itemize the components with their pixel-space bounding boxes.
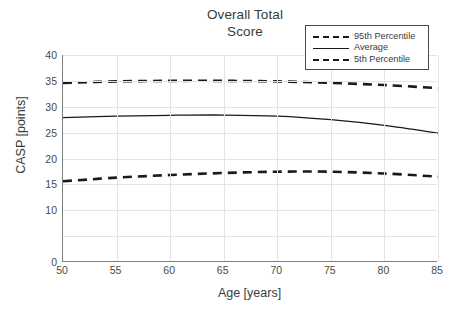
- chart-title-line-1: Overall Total: [160, 6, 330, 23]
- gridline-horizontal: [63, 184, 437, 185]
- legend-label-95th-percentile: 95th Percentile: [354, 31, 415, 42]
- y-axis-tick-label: 40: [10, 49, 62, 61]
- x-axis-tick-labels: 5055606570758085: [62, 264, 437, 280]
- y-axis-tick-label: 10: [10, 204, 62, 216]
- gridline-vertical: [224, 55, 225, 261]
- x-axis-tick-label: 70: [270, 264, 282, 276]
- gridline-horizontal: [63, 81, 437, 82]
- series-line-95th-percentile: [63, 81, 438, 88]
- gridline-horizontal: [63, 107, 437, 108]
- gridline-vertical: [331, 55, 332, 261]
- legend-label-5th-percentile: 5th Percentile: [354, 54, 410, 65]
- gridline-vertical: [438, 55, 439, 261]
- legend-item-average: Average: [311, 42, 423, 53]
- chart-container: Overall Total Score 95th Percentile Aver…: [0, 0, 466, 319]
- y-axis-title: CASP [points]: [14, 75, 28, 195]
- legend-item-5th-percentile: 5th Percentile: [311, 54, 423, 65]
- gridline-horizontal: [63, 133, 437, 134]
- legend-swatch-dashed-tight-icon: [311, 54, 349, 65]
- gridline-horizontal: [63, 159, 437, 160]
- gridline-vertical: [384, 55, 385, 261]
- series-line-5th-percentile: [63, 171, 438, 181]
- gridline-horizontal: [63, 210, 437, 211]
- series-line-average: [63, 115, 438, 133]
- plot-area: [62, 55, 437, 262]
- x-axis-title: Age [years]: [62, 286, 437, 300]
- legend-item-95th-percentile: 95th Percentile: [311, 31, 423, 42]
- x-axis-tick-label: 50: [56, 264, 68, 276]
- y-axis-tick-labels: 010152025303540: [0, 55, 62, 262]
- x-axis-tick-label: 85: [431, 264, 443, 276]
- chart-legend: 95th Percentile Average 5th Percentile: [305, 25, 429, 70]
- gridline-vertical: [170, 55, 171, 261]
- x-axis-tick-label: 80: [378, 264, 390, 276]
- legend-swatch-solid-icon: [311, 42, 349, 53]
- y-axis-tick-label: 0: [10, 256, 62, 268]
- gridline-vertical: [277, 55, 278, 261]
- x-axis-tick-label: 65: [217, 264, 229, 276]
- gridline-vertical: [117, 55, 118, 261]
- legend-swatch-dashed-icon: [311, 31, 349, 42]
- gridline-horizontal: [63, 236, 437, 237]
- x-axis-tick-label: 60: [163, 264, 175, 276]
- x-axis-tick-label: 75: [324, 264, 336, 276]
- x-axis-tick-label: 55: [110, 264, 122, 276]
- legend-label-average: Average: [354, 42, 388, 53]
